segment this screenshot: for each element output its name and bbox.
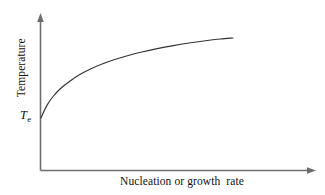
plot-area — [0, 0, 325, 195]
te-symbol: T — [20, 108, 27, 122]
te-subscript: e — [27, 114, 31, 124]
figure-canvas: Temperature Nucleation or growth rate Te — [0, 0, 325, 195]
x-axis-arrowhead — [307, 167, 316, 174]
equilibrium-temperature-annotation: Te — [20, 109, 31, 123]
y-axis-arrowhead — [37, 13, 44, 22]
x-axis-label: Nucleation or growth rate — [112, 176, 252, 188]
data-curve — [41, 38, 233, 118]
